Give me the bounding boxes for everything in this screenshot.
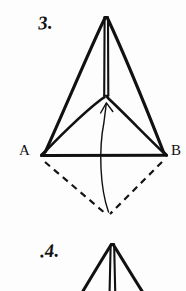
- inner-fold-left: [43, 97, 105, 154]
- triangle-left-edge: [42, 18, 106, 156]
- fold-motion-arrow-curve: [101, 105, 109, 213]
- vertex-b-label: B: [171, 143, 181, 158]
- step4-crease-left: [110, 247, 111, 291]
- dashed-flap-left: [45, 162, 106, 214]
- step4-crease-right: [114, 247, 115, 291]
- vertex-a-label: A: [19, 143, 30, 158]
- step-3-figure: [42, 17, 167, 214]
- step-3-number-label: 3.: [37, 13, 53, 33]
- fold-motion-arrow-head: [101, 103, 113, 113]
- step4-right-edge: [114, 245, 143, 291]
- diagram-page: 3. A B .4.: [0, 0, 186, 291]
- dashed-flap-right: [110, 162, 162, 214]
- step-4-number-label: .4.: [40, 241, 60, 261]
- inner-fold-right: [107, 97, 165, 154]
- step4-left-edge: [83, 245, 111, 291]
- triangle-right-edge: [107, 18, 166, 156]
- step-4-figure: [83, 244, 142, 291]
